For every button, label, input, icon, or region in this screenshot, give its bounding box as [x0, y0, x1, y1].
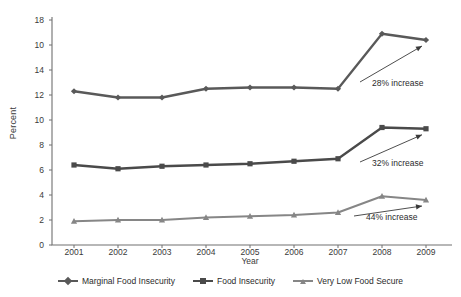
- data-point-marker: [71, 88, 77, 94]
- plot-area: [0, 0, 461, 297]
- data-point-marker: [291, 159, 296, 164]
- legend-label: Marginal Food Insecurity: [82, 276, 175, 286]
- data-point-marker: [379, 125, 384, 130]
- data-point-marker: [291, 84, 297, 90]
- data-point-marker: [203, 162, 208, 167]
- data-point-marker: [423, 126, 428, 131]
- data-point-marker: [159, 94, 165, 100]
- chart-container: Percent 024681012141018 2001200220032004…: [0, 0, 461, 297]
- data-point-marker: [71, 162, 76, 167]
- legend-label: Very Low Food Secure: [317, 276, 403, 286]
- chart-legend: Marginal Food InsecurityFood InsecurityV…: [0, 276, 461, 286]
- annotation-arrow-head: [416, 204, 422, 209]
- legend-swatch-icon: [58, 277, 78, 286]
- legend-swatch-icon: [193, 277, 213, 286]
- annotation-28-increase: 28% increase: [372, 78, 424, 88]
- data-point-marker: [203, 86, 209, 92]
- data-point-marker: [159, 164, 164, 169]
- annotation-44-increase: 44% increase: [366, 212, 418, 222]
- annotation-32-increase: 32% increase: [372, 158, 424, 168]
- series-1: [71, 31, 429, 101]
- legend-label: Food Insecurity: [217, 276, 275, 286]
- annotation-arrow-head: [416, 46, 422, 51]
- data-point-marker: [335, 156, 340, 161]
- data-point-marker: [247, 84, 253, 90]
- legend-item-2[interactable]: Food Insecurity: [193, 276, 275, 286]
- data-point-marker: [423, 37, 429, 43]
- data-point-marker: [115, 94, 121, 100]
- legend-item-3[interactable]: Very Low Food Secure: [293, 276, 403, 286]
- data-point-marker: [115, 166, 120, 171]
- data-point-marker: [247, 161, 252, 166]
- legend-item-1[interactable]: Marginal Food Insecurity: [58, 276, 175, 286]
- legend-swatch-icon: [293, 277, 313, 286]
